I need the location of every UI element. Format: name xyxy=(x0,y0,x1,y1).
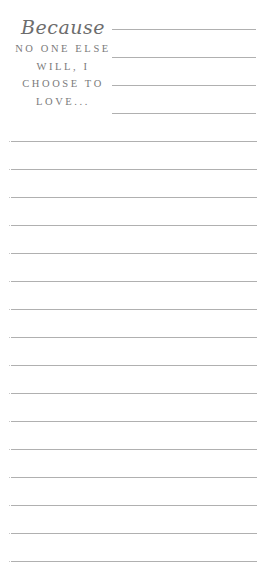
rule-start-dot xyxy=(9,505,10,506)
heading-line-3: CHOOSE TO xyxy=(14,78,112,90)
heading-line-2: WILL, I xyxy=(14,61,112,73)
writing-rule-line xyxy=(11,477,257,478)
writing-rule-line xyxy=(11,393,257,394)
writing-rule-line xyxy=(11,253,257,254)
writing-rule-line xyxy=(11,365,257,366)
rule-start-dot xyxy=(9,197,10,198)
heading-line-1: NO ONE ELSE xyxy=(14,43,112,55)
writing-rule-line xyxy=(11,337,257,338)
rule-start-dot xyxy=(9,421,10,422)
rule-start-dot xyxy=(9,449,10,450)
rule-start-dot xyxy=(9,169,10,170)
writing-rule-line xyxy=(11,449,257,450)
rule-start-dot xyxy=(9,225,10,226)
rule-start-dot xyxy=(9,281,10,282)
rule-start-dot xyxy=(9,477,10,478)
short-rule-line xyxy=(112,57,256,58)
writing-rule-line xyxy=(11,225,257,226)
heading-line-4: LOVE... xyxy=(14,96,112,108)
rule-start-dot xyxy=(9,561,10,562)
writing-rule-line xyxy=(11,169,257,170)
writing-rule-line xyxy=(11,309,257,310)
writing-rule-line xyxy=(11,505,257,506)
rule-start-dot xyxy=(9,393,10,394)
rule-start-dot xyxy=(9,253,10,254)
rule-start-dot xyxy=(9,141,10,142)
writing-rule-line xyxy=(11,141,257,142)
rule-start-dot xyxy=(9,365,10,366)
writing-rule-line xyxy=(11,421,257,422)
writing-rule-line xyxy=(11,281,257,282)
writing-rule-line xyxy=(11,561,257,562)
notepad-page: Because NO ONE ELSE WILL, I CHOOSE TO LO… xyxy=(0,0,274,571)
short-rule-line xyxy=(112,85,256,86)
heading-script-word: Because xyxy=(14,16,112,38)
rule-start-dot xyxy=(9,337,10,338)
rule-start-dot xyxy=(9,309,10,310)
writing-rule-line xyxy=(11,197,257,198)
short-rule-line xyxy=(112,29,256,30)
writing-rule-line xyxy=(11,533,257,534)
short-rule-line xyxy=(112,113,256,114)
rule-start-dot xyxy=(9,533,10,534)
